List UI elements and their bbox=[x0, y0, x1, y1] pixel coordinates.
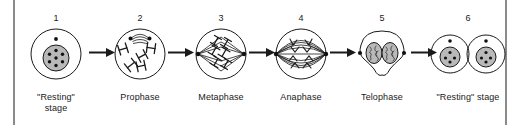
cell-daughter-pair-icon bbox=[430, 25, 506, 85]
left-frame-rule bbox=[13, 0, 15, 125]
stage-label: Prophase bbox=[110, 92, 170, 103]
stage-6-resting: 6 bbox=[430, 0, 506, 125]
stage-number: 3 bbox=[190, 13, 252, 24]
stage-5-telophase: 5 Telophase bbox=[351, 0, 413, 125]
cell-telophase-icon bbox=[351, 25, 413, 85]
cell-prophase-icon bbox=[110, 25, 170, 85]
stage-2-prophase: 2 bbox=[110, 0, 170, 125]
mitosis-diagram: 1 "Resting" stage 2 bbox=[0, 0, 519, 125]
stage-label: "Resting" stage bbox=[430, 92, 506, 103]
stage-number: 4 bbox=[270, 13, 332, 24]
stage-4-anaphase: 4 bbox=[270, 0, 332, 125]
stage-number: 6 bbox=[444, 13, 492, 24]
stage-number: 2 bbox=[110, 13, 170, 24]
stage-number: 5 bbox=[351, 13, 413, 24]
stage-label: Telophase bbox=[351, 92, 413, 103]
stage-3-metaphase: 3 bbox=[190, 0, 252, 125]
stage-number: 1 bbox=[22, 13, 90, 24]
stage-label: "Resting" stage bbox=[22, 92, 90, 114]
cell-anaphase-icon bbox=[270, 25, 332, 85]
cell-resting-stage-icon bbox=[22, 25, 90, 85]
stage-label: Metaphase bbox=[190, 92, 252, 103]
cell-metaphase-icon bbox=[190, 25, 252, 85]
stage-label: Anaphase bbox=[270, 92, 332, 103]
stage-1-resting: 1 "Resting" stage bbox=[22, 0, 90, 125]
